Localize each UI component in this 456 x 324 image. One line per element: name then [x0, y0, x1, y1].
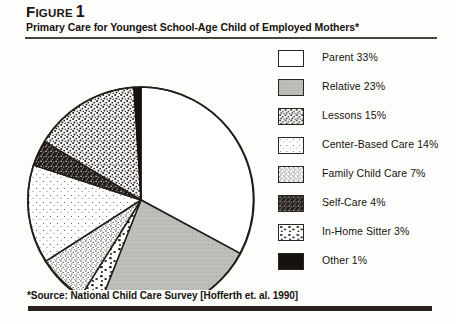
swatch-fine-stipple-icon — [278, 166, 304, 183]
legend: Parent 33% Relative 23% Lessons 15% Cent… — [278, 48, 456, 280]
legend-item-parent: Parent 33% — [278, 48, 456, 77]
figure-number: 1 — [76, 3, 85, 20]
swatch-sparse-dots-icon — [278, 137, 304, 154]
legend-item-in-home-sitter: In-Home Sitter 3% — [278, 222, 456, 251]
swatch-coarse-speckle-icon — [278, 108, 304, 125]
legend-label-family-child-care: Family Child Care 7% — [322, 167, 426, 179]
swatch-black-icon — [278, 253, 304, 270]
legend-item-relative: Relative 23% — [278, 77, 456, 106]
bottom-divider — [28, 306, 432, 311]
legend-item-other: Other 1% — [278, 251, 456, 280]
legend-label-center-based-care: Center-Based Care 14% — [322, 138, 439, 150]
figure-label-prefix: F — [26, 3, 35, 20]
legend-item-self-care: Self-Care 4% — [278, 193, 456, 222]
title-divider — [25, 37, 437, 39]
swatch-blob-dots-icon — [278, 224, 304, 241]
swatch-blank-icon — [278, 50, 304, 67]
figure-page: FIGURE1 Primary Care for Youngest School… — [0, 0, 456, 324]
legend-label-relative: Relative 23% — [322, 80, 385, 92]
swatch-solid-gray-icon — [278, 79, 304, 96]
figure-title: Primary Care for Youngest School-Age Chi… — [26, 21, 359, 33]
pie-chart — [0, 40, 270, 290]
legend-item-lessons: Lessons 15% — [278, 106, 456, 135]
figure-label-rest: IGURE — [35, 7, 72, 19]
figure-label: FIGURE1 — [26, 3, 85, 21]
legend-label-parent: Parent 33% — [322, 51, 378, 63]
source-note: *Source: National Child Care Survey [Hof… — [27, 290, 298, 301]
legend-label-other: Other 1% — [322, 254, 367, 266]
legend-label-lessons: Lessons 15% — [322, 109, 386, 121]
legend-label-self-care: Self-Care 4% — [322, 196, 386, 208]
pie-chart-svg — [0, 40, 270, 290]
swatch-dark-speckle-icon — [278, 195, 304, 212]
legend-label-in-home-sitter: In-Home Sitter 3% — [322, 225, 409, 237]
legend-item-center-based-care: Center-Based Care 14% — [278, 135, 456, 164]
legend-item-family-child-care: Family Child Care 7% — [278, 164, 456, 193]
